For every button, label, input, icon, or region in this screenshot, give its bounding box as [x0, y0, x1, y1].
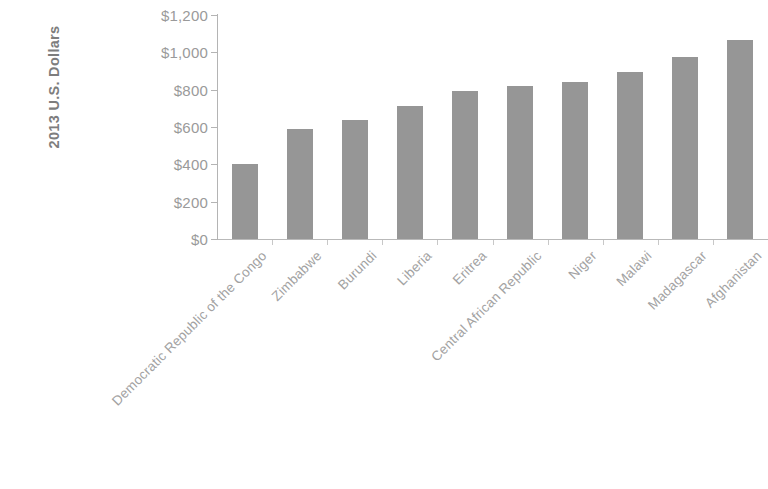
- x-axis-category-label: Niger: [566, 248, 600, 282]
- x-axis-category-label: Burundi: [335, 248, 380, 293]
- bar: [562, 82, 588, 239]
- x-axis-category-label: Afghanistan: [702, 248, 765, 311]
- x-axis-tick-mark: [493, 240, 494, 245]
- y-axis-tick-labels: $0$200$400$600$800$1,000$1,200: [128, 0, 208, 250]
- x-axis-tick-mark: [272, 240, 273, 245]
- y-axis-title: 2013 U.S. Dollars: [46, 0, 62, 202]
- bar: [397, 106, 423, 239]
- bar: [232, 164, 258, 239]
- bar: [452, 91, 478, 239]
- x-axis-category-label: Central African Republic: [428, 248, 544, 364]
- x-axis-tick-mark: [548, 240, 549, 245]
- bar: [672, 57, 698, 239]
- bar: [727, 40, 753, 239]
- x-axis-category-label: Malawi: [614, 248, 655, 289]
- plot-area: [217, 15, 768, 239]
- x-axis-tick-mark: [713, 240, 714, 245]
- y-axis-tick-label: $800: [128, 81, 208, 98]
- y-axis-tick-label: $400: [128, 156, 208, 173]
- bar: [617, 72, 643, 239]
- y-axis-tick-label: $200: [128, 193, 208, 210]
- x-axis-tick-mark: [437, 240, 438, 245]
- bar: [287, 129, 313, 239]
- y-axis-tick-label: $1,000: [128, 44, 208, 61]
- bar-chart: 2013 U.S. Dollars $0$200$400$600$800$1,0…: [0, 0, 768, 489]
- x-axis-category-label: Democratic Republic of the Congo: [109, 248, 270, 409]
- x-axis-category-label: Madagascar: [645, 248, 710, 313]
- bar: [342, 120, 368, 239]
- x-axis-category-label: Eritrea: [450, 248, 490, 288]
- x-axis-category-label: Zimbabwe: [268, 248, 324, 304]
- y-axis-tick-label: $600: [128, 119, 208, 136]
- x-axis-tick-mark: [658, 240, 659, 245]
- bar: [507, 86, 533, 239]
- x-axis-tick-mark: [382, 240, 383, 245]
- y-axis-tick-mark: [211, 239, 218, 240]
- x-axis-category-label: Liberia: [394, 248, 434, 288]
- y-axis-tick-label: $1,200: [128, 7, 208, 24]
- x-axis-tick-mark: [327, 240, 328, 245]
- x-axis-tick-mark: [603, 240, 604, 245]
- y-axis-tick-label: $0: [128, 231, 208, 248]
